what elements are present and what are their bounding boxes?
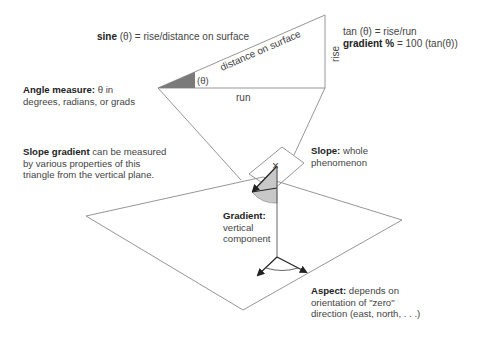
aspect-arrow-left: [258, 257, 277, 275]
sine-formula: sine (θ) = rise/distance on surface: [97, 31, 249, 43]
point-marker-icon: ×: [272, 159, 279, 173]
tan-formula: tan (θ) = rise/run: [343, 26, 417, 38]
slope-annotation: Slope: whole phenomenon: [311, 145, 368, 168]
gradient-term: gradient %: [343, 38, 394, 49]
gradient-formula: gradient % = 100 (tan(θ)): [343, 38, 458, 50]
slope-triangle: [158, 15, 325, 88]
run-label: run: [236, 92, 250, 103]
angle-measure-annotation: Angle measure: θ in degrees, radians, or…: [23, 84, 135, 107]
slope-gradient-annotation: Slope gradient can be measured by variou…: [23, 146, 166, 181]
projection-line-left: [158, 88, 241, 180]
gradient-annotation: Gradient: vertical component: [223, 210, 270, 245]
aspect-arc: [266, 268, 298, 271]
aspect-annotation: Aspect: depends on orientation of "zero"…: [311, 285, 420, 320]
sine-term: sine: [97, 31, 117, 42]
angle-label: (θ): [197, 75, 209, 86]
rise-label: rise: [330, 45, 341, 62]
